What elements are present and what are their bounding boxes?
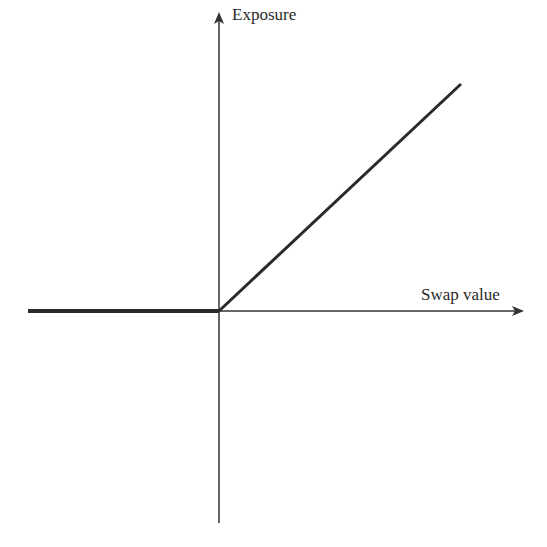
y-axis-label: Exposure [232,5,296,24]
exposure-diagram: Exposure Swap value [0,0,547,547]
exposure-diagonal-segment [219,84,461,311]
x-axis-label: Swap value [421,285,500,304]
